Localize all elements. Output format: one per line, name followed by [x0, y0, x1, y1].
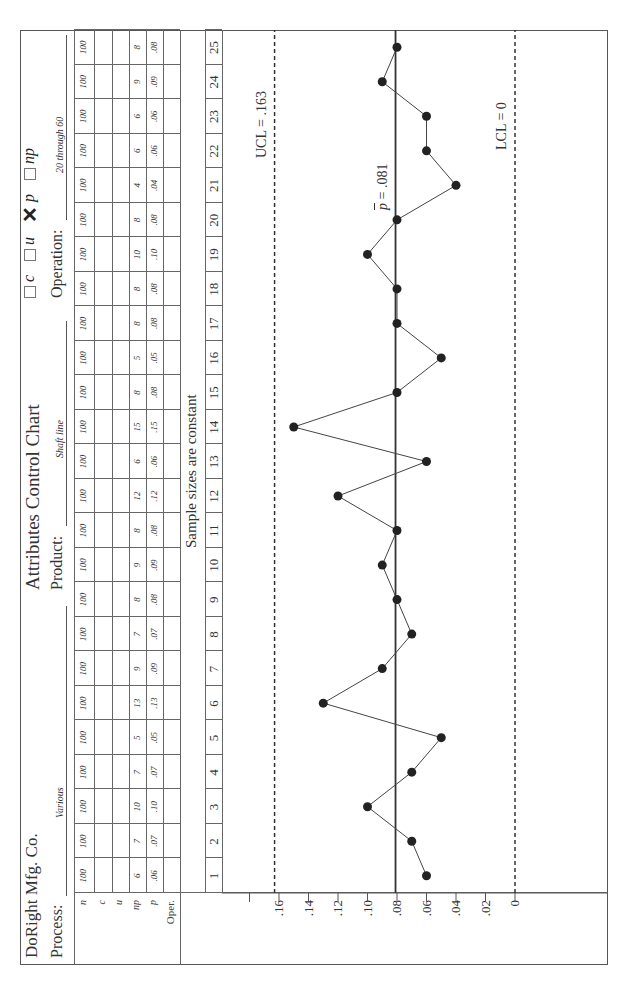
data-point [393, 595, 402, 604]
data-point [393, 319, 402, 328]
p-chart-plot [0, 0, 627, 988]
data-point [437, 353, 446, 362]
data-point [393, 215, 402, 224]
data-point [437, 733, 446, 742]
data-point [422, 871, 431, 880]
data-point [422, 146, 431, 155]
data-point [378, 664, 387, 673]
data-point [334, 492, 343, 501]
data-point [378, 77, 387, 86]
data-point [289, 422, 298, 431]
data-point [393, 388, 402, 397]
data-point [363, 250, 372, 259]
control-chart-sheet: DoRight Mfg. Co. Process: Various Attrib… [0, 0, 627, 988]
data-point [393, 526, 402, 535]
data-point [407, 768, 416, 777]
data-point [422, 457, 431, 466]
p-series-line [294, 47, 456, 875]
data-point [393, 43, 402, 52]
data-point [452, 181, 461, 190]
data-point [378, 561, 387, 570]
data-point [319, 699, 328, 708]
data-point [363, 802, 372, 811]
data-point [422, 112, 431, 121]
data-point [407, 837, 416, 846]
data-point [393, 284, 402, 293]
data-point [407, 630, 416, 639]
